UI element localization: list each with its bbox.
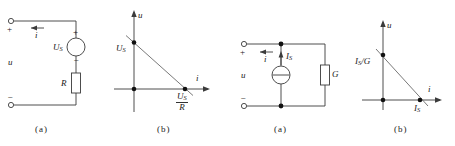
conductance-label: G [332, 70, 339, 79]
i-axis-arrowhead [203, 86, 210, 91]
node-dot-bottom [279, 104, 284, 109]
port-voltage-label: u [8, 58, 13, 67]
i-axis-label: i [196, 74, 199, 83]
current-source-label: IS [286, 52, 292, 62]
origin-dot [381, 98, 386, 103]
terminal-bottom [241, 103, 246, 108]
port-voltage-label: u [241, 71, 246, 80]
node-dot-top [279, 42, 284, 47]
x-intercept-fraction: US R [176, 92, 188, 113]
characteristic-line [126, 36, 193, 96]
current-label: i [35, 31, 38, 40]
panel-current-source-characteristic: u i IS/G IS (b) [352, 0, 455, 146]
i-axis-arrowhead [435, 97, 442, 102]
panel-voltage-source-characteristic: u i US US R (b) [110, 0, 225, 146]
y-intercept-label: US [116, 44, 126, 54]
x-intercept-label: IS [414, 104, 420, 114]
voltage-source-label: US [53, 43, 63, 53]
current-label: i [264, 55, 267, 64]
terminal-bottom [8, 102, 13, 107]
panel-voltage-source-circuit: + − u i + − US R (a) [0, 0, 110, 146]
panel-current-source-circuit: + − u i IS G (a) [232, 0, 350, 146]
voltage-source-symbol [67, 38, 85, 56]
y-intercept-dot [381, 53, 386, 58]
i-axis-label: i [428, 85, 431, 94]
terminal-plus-sign: + [240, 48, 245, 57]
source-current-arrow [279, 51, 284, 65]
u-axis-arrowhead [380, 20, 385, 27]
origin-dot [132, 87, 137, 92]
u-axis-label: u [138, 11, 143, 20]
panel-caption-a2: (a) [274, 124, 287, 134]
characteristic-line [376, 49, 428, 106]
panel-caption-a1: (a) [35, 124, 48, 134]
terminal-plus-sign: + [7, 25, 12, 34]
terminal-top [241, 41, 246, 46]
source-minus-sign: − [74, 56, 79, 65]
x-intercept-dot [418, 98, 423, 103]
u-axis-label: u [387, 21, 392, 30]
panel-caption-b1: (b) [157, 124, 171, 134]
resistor-label: R [61, 79, 67, 88]
terminal-minus-sign: − [8, 93, 13, 102]
terminal-top [8, 18, 13, 23]
y-intercept-label: IS/G [355, 57, 370, 67]
source-plus-sign: + [73, 28, 78, 37]
fraction-denominator: R [176, 103, 188, 112]
figure-root: + − u i + − US R (a) [0, 0, 455, 146]
terminal-minus-sign: − [241, 94, 246, 103]
voltage-source-circuit-diagram [0, 0, 110, 146]
panel-caption-b2: (b) [394, 124, 408, 134]
resistor-symbol [72, 73, 81, 93]
u-axis-arrowhead [131, 10, 136, 17]
y-intercept-dot [132, 40, 137, 45]
conductance-symbol [321, 65, 330, 85]
